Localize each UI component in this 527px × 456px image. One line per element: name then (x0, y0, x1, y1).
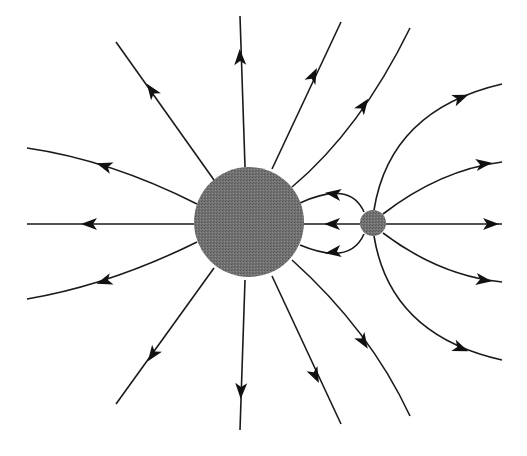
field-line (240, 280, 245, 430)
arrow-icon (451, 89, 470, 106)
field-lines-small-charge (374, 84, 502, 360)
arrow-icon (354, 332, 373, 352)
field-line (383, 233, 502, 282)
field-line (374, 236, 502, 360)
field-line (27, 242, 197, 299)
field-line (292, 28, 410, 187)
field-line (27, 148, 197, 204)
field-line (383, 162, 502, 214)
field-line (272, 22, 341, 169)
field-line (374, 84, 502, 210)
arrow-icon (451, 340, 470, 357)
field-line (292, 260, 410, 416)
small-charge (360, 210, 386, 236)
arrow-icon (95, 158, 114, 174)
field-line (240, 16, 245, 167)
field-line (116, 268, 214, 404)
large-charge (194, 167, 304, 277)
arrow-icon (234, 49, 247, 65)
field-line-diagram (0, 0, 527, 456)
field-line (116, 42, 214, 180)
